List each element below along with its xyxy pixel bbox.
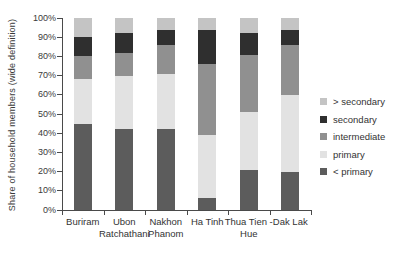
legend-label: intermediate <box>333 131 385 142</box>
x-tick-mark <box>311 211 312 215</box>
y-tick-label: 30% <box>16 148 56 157</box>
stacked-bar-ubon-ratchathani <box>115 18 133 210</box>
x-tick-mark <box>270 211 271 215</box>
stacked-bar-thua-tien-hue <box>240 18 258 210</box>
segment-primary <box>74 79 92 123</box>
legend-swatch-icon <box>320 151 327 158</box>
y-tick-mark <box>57 37 62 38</box>
y-tick-label: 60% <box>16 90 56 99</box>
y-tick-mark <box>57 190 62 191</box>
y-tick-mark <box>57 75 62 76</box>
segment-secondary <box>157 30 175 45</box>
segment-intermediate <box>74 56 92 79</box>
segment-secondary <box>115 33 133 52</box>
y-tick-label: 90% <box>16 33 56 42</box>
segment-primary <box>115 76 133 130</box>
segment-primary <box>157 129 175 210</box>
segment-secondary <box>198 30 216 65</box>
segment-primary <box>157 74 175 130</box>
y-tick-label: 40% <box>16 129 56 138</box>
y-tick-label: 10% <box>16 186 56 195</box>
segment-secondary <box>281 30 299 45</box>
x-tick-mark <box>104 211 105 215</box>
legend-item: < primary <box>320 163 385 181</box>
stacked-bar-buriram <box>74 18 92 210</box>
segment-secondary <box>74 37 92 56</box>
segment-primary <box>198 198 216 210</box>
legend: > secondarysecondaryintermediateprimary<… <box>320 93 385 181</box>
segment-primary <box>281 172 299 210</box>
stacked-bar-dak-lak <box>281 18 299 210</box>
segment-primary <box>74 124 92 210</box>
x-tick-mark <box>62 211 63 215</box>
x-tick-mark <box>145 211 146 215</box>
stacked-bar-nakhon-phanom <box>157 18 175 210</box>
y-tick-mark <box>57 94 62 95</box>
segment-secondary <box>74 18 92 37</box>
segment-secondary <box>157 18 175 30</box>
y-tick-label: 100% <box>16 14 56 23</box>
category-label: Dak Lak <box>264 216 316 228</box>
legend-item: primary <box>320 146 385 164</box>
stacked-bar-chart-figure: Share of household members (wide definit… <box>0 0 400 253</box>
segment-secondary <box>198 18 216 30</box>
segment-secondary <box>115 18 133 33</box>
x-tick-mark <box>187 211 188 215</box>
x-tick-mark <box>228 211 229 215</box>
segment-intermediate <box>157 45 175 74</box>
y-tick-mark <box>57 114 62 115</box>
y-tick-label: 0% <box>16 206 56 215</box>
legend-swatch-icon <box>320 168 327 175</box>
legend-swatch-icon <box>320 98 327 105</box>
segment-secondary <box>281 18 299 30</box>
y-tick-label: 80% <box>16 52 56 61</box>
segment-primary <box>240 112 258 170</box>
y-tick-label: 70% <box>16 71 56 80</box>
stacked-bar-ha-tinh <box>198 18 216 210</box>
y-tick-mark <box>57 56 62 57</box>
y-tick-mark <box>57 133 62 134</box>
legend-item: secondary <box>320 111 385 129</box>
segment-intermediate <box>198 64 216 135</box>
segment-secondary <box>240 33 258 54</box>
y-tick-mark <box>57 18 62 19</box>
legend-label: > secondary <box>333 96 385 107</box>
segment-intermediate <box>115 53 133 76</box>
legend-item: intermediate <box>320 128 385 146</box>
y-tick-label: 50% <box>16 110 56 119</box>
legend-label: secondary <box>333 114 377 125</box>
segment-intermediate <box>240 55 258 113</box>
legend-label: < primary <box>333 166 373 177</box>
y-tick-label: 20% <box>16 167 56 176</box>
segment-primary <box>240 170 258 210</box>
segment-primary <box>198 135 216 198</box>
legend-item: > secondary <box>320 93 385 111</box>
legend-label: primary <box>333 149 365 160</box>
segment-secondary <box>240 18 258 33</box>
y-tick-mark <box>57 171 62 172</box>
plot-area <box>62 18 312 211</box>
segment-primary <box>115 129 133 210</box>
y-tick-mark <box>57 152 62 153</box>
legend-swatch-icon <box>320 116 327 123</box>
segment-primary <box>281 95 299 172</box>
legend-swatch-icon <box>320 133 327 140</box>
segment-intermediate <box>281 45 299 95</box>
